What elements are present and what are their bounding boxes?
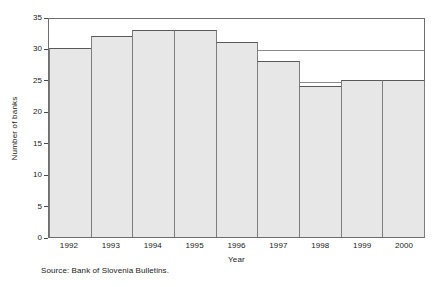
y-axis-tick-label: 25 — [33, 77, 44, 85]
plot-area — [48, 18, 425, 238]
y-axis-ticks: 05101520253035 — [0, 18, 48, 238]
x-axis-tick-label-1997: 1997 — [257, 241, 299, 250]
y-axis-tick-20: 20 — [33, 108, 48, 116]
bar-chart-figure: Number of banks 05101520253035 199219931… — [0, 0, 441, 287]
y-axis-tick-10: 10 — [33, 171, 48, 179]
bar-2000 — [382, 80, 425, 237]
y-axis-tick-label: 35 — [33, 14, 44, 22]
y-axis-tick-25: 25 — [33, 77, 48, 85]
x-axis-tick-label-1999: 1999 — [341, 241, 383, 250]
x-axis-tick-label-1996: 1996 — [216, 241, 258, 250]
bar-1995 — [174, 30, 217, 237]
x-axis-tick-label-1993: 1993 — [90, 241, 132, 250]
bar-1993 — [91, 36, 134, 237]
source-note: Source: Bank of Slovenia Bulletins. — [41, 266, 169, 275]
x-axis-tick-label-1994: 1994 — [132, 241, 174, 250]
x-axis-title: Year — [48, 255, 425, 264]
y-axis-tick-label: 30 — [33, 45, 44, 53]
y-axis-tick-5: 5 — [37, 203, 48, 211]
y-axis-tick-30: 30 — [33, 45, 48, 53]
bar-series — [49, 19, 424, 237]
y-axis-tick-15: 15 — [33, 140, 48, 148]
x-axis-tick-labels: 199219931994199519961997199819992000 — [48, 241, 425, 250]
plot-inner — [49, 19, 424, 237]
bar-1994 — [132, 30, 175, 237]
bar-1998 — [299, 86, 342, 237]
y-axis-tick-label: 10 — [33, 171, 44, 179]
y-axis-tick-35: 35 — [33, 14, 48, 22]
x-axis-tick-label-1995: 1995 — [174, 241, 216, 250]
x-axis-tick-label-1998: 1998 — [299, 241, 341, 250]
bar-1992 — [49, 48, 92, 237]
x-axis-tick-label-2000: 2000 — [383, 241, 425, 250]
y-axis-tick-label: 15 — [33, 140, 44, 148]
bar-1999 — [341, 80, 384, 237]
x-axis-tick-label-1992: 1992 — [48, 241, 90, 250]
y-axis-tick-label: 20 — [33, 108, 44, 116]
bar-1996 — [216, 42, 259, 237]
bar-1997 — [257, 61, 300, 237]
y-axis-tick-0: 0 — [37, 234, 48, 242]
